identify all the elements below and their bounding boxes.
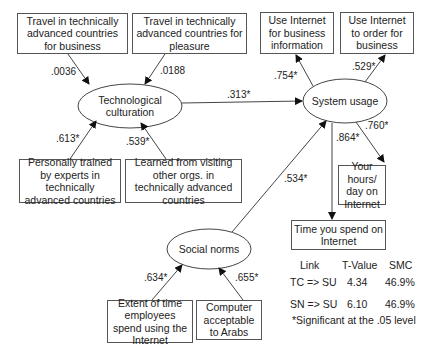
coef-su-hours: .760* [365, 120, 388, 131]
indicator-box-su-hours: Your hours/ day on Internet [338, 165, 386, 205]
coef-tc-pleasure-travel: .0188 [160, 65, 185, 76]
indicator-box-su-order: Use Internet to order for business [340, 12, 414, 54]
coef-sn-acceptable: .655* [235, 272, 258, 283]
coef-tc-trained: .613* [56, 133, 79, 144]
coef-tc-to-su: .313* [227, 89, 250, 100]
indicator-box-sn-extent: Extent of time employees spend using the… [107, 300, 193, 343]
table-header-link: Link [300, 259, 319, 271]
coef-su-order: .529* [352, 61, 375, 72]
indicator-box-tc-trained: Personally trained by experts in technic… [19, 159, 121, 203]
table-footnote: *Significant at the .05 level [292, 314, 416, 326]
indicator-box-su-time: Time you spend on Internet [291, 220, 386, 250]
indicator-box-su-business-info: Use Internet for business information [260, 12, 334, 54]
coef-su-business-info: .754* [274, 70, 297, 81]
table-row-1-smc: 46.9% [385, 276, 415, 288]
indicator-box-tc-learned: Learned from visiting other orgs. in tec… [125, 159, 242, 203]
coef-sn-to-su: .534* [284, 173, 307, 184]
coef-tc-business-travel: .0036 [51, 66, 76, 77]
indicator-box-sn-acceptable: Computer acceptable to Arabs [196, 300, 262, 340]
construct-technological-culturation: Technological culturation [80, 86, 180, 126]
table-row-2-tvalue: 6.10 [347, 298, 367, 310]
table-header-smc: SMC [389, 259, 412, 271]
construct-social-norms: Social norms [167, 239, 251, 259]
indicator-box-tc-pleasure-travel: Travel in technically advanced countries… [132, 13, 247, 54]
coef-tc-learned: .539* [126, 136, 149, 147]
table-row-2-link: SN => SU [290, 298, 337, 310]
table-row-1-link: TC => SU [290, 276, 337, 288]
indicator-box-tc-business-travel: Travel in technically advanced countries… [17, 13, 128, 54]
coef-su-time: .864* [336, 132, 359, 143]
coef-sn-extent: .634* [144, 272, 167, 283]
construct-system-usage: System usage [310, 81, 380, 121]
table-header-tvalue: T-Value [342, 259, 377, 271]
table-row-1-tvalue: 4.34 [347, 276, 367, 288]
table-row-2-smc: 46.9% [385, 298, 415, 310]
